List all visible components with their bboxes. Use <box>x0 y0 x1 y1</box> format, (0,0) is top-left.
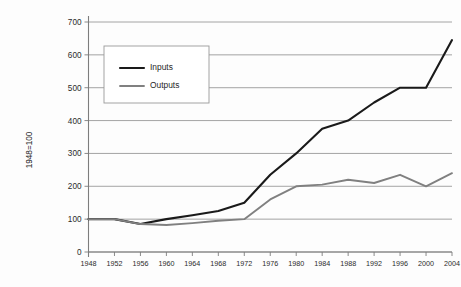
x-tick-label-1976: 1976 <box>262 259 278 268</box>
y-tick-label-600: 600 <box>68 51 82 60</box>
y-tick-label-700: 700 <box>68 18 82 27</box>
chart-container: 0100200300400500600700 19481952195619601… <box>0 0 461 287</box>
y-tick-label-400: 400 <box>68 117 82 126</box>
series-line-outputs <box>89 173 453 225</box>
line-chart: 0100200300400500600700 19481952195619601… <box>0 0 461 287</box>
x-tick-label-1960: 1960 <box>158 259 174 268</box>
x-tick-label-1984: 1984 <box>314 259 330 268</box>
y-tick-label-200: 200 <box>68 182 82 191</box>
legend-label-inputs: Inputs <box>150 62 173 72</box>
x-tick-label-1972: 1972 <box>236 259 252 268</box>
y-tick-label-100: 100 <box>68 215 82 224</box>
x-tick-label-1956: 1956 <box>132 259 148 268</box>
y-tick-label-500: 500 <box>68 84 82 93</box>
chart-legend: InputsOutputs <box>104 46 209 103</box>
x-tick-label-1988: 1988 <box>340 259 356 268</box>
x-tick-label-1992: 1992 <box>366 259 382 268</box>
legend-label-outputs: Outputs <box>150 80 179 90</box>
y-tick-label-0: 0 <box>77 248 82 257</box>
x-tick-label-2000: 2000 <box>418 259 434 268</box>
x-tick-label-1996: 1996 <box>392 259 408 268</box>
x-tick-label-2004: 2004 <box>444 259 460 268</box>
x-axis-ticks: 1948195219561960196419681972197619801984… <box>81 252 461 268</box>
y-axis-title-text: 1948=100 <box>25 131 34 168</box>
x-tick-label-1964: 1964 <box>184 259 200 268</box>
y-tick-label-300: 300 <box>68 149 82 158</box>
legend-background <box>104 46 209 103</box>
y-axis-title: 1948=100 <box>25 131 34 168</box>
y-axis-ticks: 0100200300400500600700 <box>68 18 89 257</box>
x-tick-label-1968: 1968 <box>210 259 226 268</box>
x-tick-label-1952: 1952 <box>106 259 122 268</box>
x-tick-label-1948: 1948 <box>81 259 97 268</box>
x-tick-label-1980: 1980 <box>288 259 304 268</box>
